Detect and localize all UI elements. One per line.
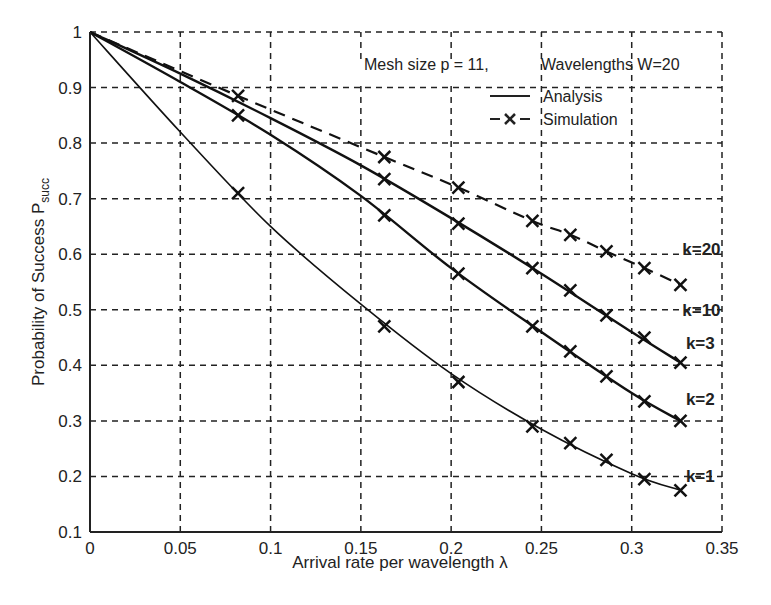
x-marker-icon — [638, 395, 650, 407]
x-marker-icon — [674, 357, 686, 369]
y-tick-label: 0.3 — [58, 412, 82, 431]
y-tick-label: 0.5 — [58, 301, 82, 320]
y-axis-label-sub: succ — [38, 178, 52, 203]
x-marker-icon — [378, 151, 390, 163]
x-marker-icon — [232, 187, 244, 199]
curve-label-k3: k=3 — [686, 334, 715, 353]
x-marker-icon — [600, 245, 612, 257]
x-tick-label: 0.25 — [525, 539, 558, 558]
x-marker-icon — [600, 370, 612, 382]
annotation-wavelengths: Wavelengths W=20 — [541, 56, 680, 73]
y-tick-label: 0.1 — [58, 523, 82, 542]
curve-label-k2: k=2 — [686, 390, 715, 409]
x-marker-icon — [564, 229, 576, 241]
curve-label-k1: k=1 — [686, 467, 715, 486]
x-tick-label: 0.3 — [620, 539, 644, 558]
y-tick-label: 0.8 — [58, 134, 82, 153]
x-marker-icon — [526, 262, 538, 274]
y-tick-label: 1 — [73, 23, 82, 42]
y-tick-label: 0.2 — [58, 467, 82, 486]
x-marker-icon — [564, 345, 576, 357]
annotation-mesh: Mesh size p = 11, — [364, 56, 489, 73]
curve-labels: k=20k=10k=3k=2k=1 — [682, 240, 720, 487]
x-marker-icon — [600, 309, 612, 321]
x-marker-icon — [232, 109, 244, 121]
x-tick-label: 0.05 — [164, 539, 197, 558]
y-tick-label: 0.6 — [58, 245, 82, 264]
x-tick-label: 0.1 — [259, 539, 283, 558]
x-marker-icon — [378, 209, 390, 221]
x-marker-icon — [232, 90, 244, 102]
y-tick-label: 0.9 — [58, 79, 82, 98]
y-axis-label: Probability of Success Psucc — [29, 178, 52, 386]
chart: 00.050.10.150.20.250.30.35 0.10.20.30.40… — [0, 0, 771, 605]
x-marker-icon — [638, 262, 650, 274]
x-marker-icon — [526, 320, 538, 332]
axes — [90, 32, 722, 532]
grid-lines — [90, 32, 722, 532]
x-marker-icon — [674, 484, 686, 496]
svg-text:Probability of Success Psucc: Probability of Success Psucc — [29, 178, 52, 386]
legend-analysis-label: Analysis — [543, 88, 603, 105]
curve-label-k20: k=20 — [682, 240, 720, 259]
legend: Analysis Simulation — [490, 88, 618, 128]
x-tick-label: 0.35 — [705, 539, 738, 558]
y-tick-labels: 0.10.20.30.40.50.60.70.80.91 — [58, 23, 82, 542]
x-tick-label: 0 — [85, 539, 94, 558]
y-tick-label: 0.7 — [58, 190, 82, 209]
y-tick-label: 0.4 — [58, 356, 82, 375]
x-marker-icon — [378, 173, 390, 185]
x-marker-icon — [452, 268, 464, 280]
curve-label-k10: k=10 — [682, 301, 720, 320]
x-marker-icon — [526, 215, 538, 227]
x-marker-icon — [674, 279, 686, 291]
x-marker-icon — [505, 114, 515, 124]
x-axis-label: Arrival rate per wavelength λ — [292, 553, 508, 572]
x-marker-icon — [638, 473, 650, 485]
legend-simulation-label: Simulation — [543, 111, 618, 128]
x-marker-icon — [452, 182, 464, 194]
y-axis-label-main: Probability of Success P — [29, 203, 48, 386]
